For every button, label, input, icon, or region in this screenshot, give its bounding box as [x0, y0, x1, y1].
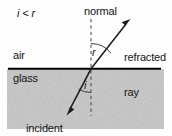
refracted-ray-label-line2: ray: [124, 87, 166, 99]
inequality-label: i < r: [17, 8, 35, 20]
incident-ray-label: incident ray: [26, 99, 63, 136]
air-medium-label: air: [13, 50, 25, 62]
glass-medium-label: glass: [13, 73, 38, 85]
refracted-ray-label-line1: refracted: [124, 52, 166, 64]
normal-label: normal: [84, 6, 117, 18]
incident-ray-label-line1: incident: [26, 123, 63, 135]
refracted-ray-label: refracted ray: [124, 28, 166, 123]
angle-of-refraction-label: r: [92, 47, 96, 59]
angle-of-incidence-label: i: [84, 80, 86, 92]
refraction-diagram: i < r normal refracted ray air glass r i…: [0, 0, 172, 136]
